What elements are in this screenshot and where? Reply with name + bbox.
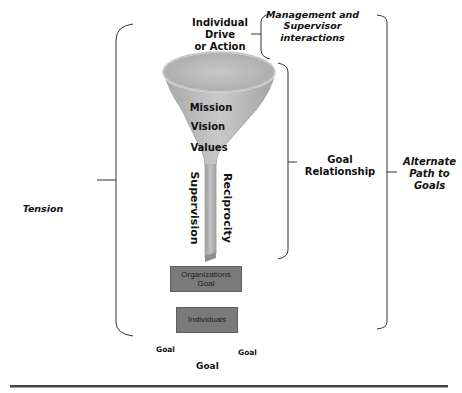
alternate-path-label: Alternate Path to Goals bbox=[397, 156, 462, 192]
management-line-3: interactions bbox=[265, 32, 360, 43]
bottom-rule bbox=[10, 385, 448, 388]
alternate-path-line-1: Alternate bbox=[397, 156, 462, 168]
funnel-top-line-2: Drive bbox=[170, 29, 270, 41]
vision-label: Vision bbox=[186, 121, 230, 133]
organizations-goal-box: Organizations Goal bbox=[170, 266, 242, 292]
goal-relationship-line-2: Relationship bbox=[300, 166, 380, 178]
tension-label: Tension bbox=[18, 203, 68, 214]
goal-relationship-label: Goal Relationship bbox=[300, 154, 380, 178]
management-line-1: Management and bbox=[265, 9, 360, 20]
funnel-icon bbox=[163, 52, 275, 262]
alternate-path-bracket bbox=[377, 15, 397, 329]
alternate-path-line-2: Path to bbox=[397, 168, 462, 180]
goal-label-right: Goal bbox=[238, 348, 257, 357]
funnel-top-line-1: Individual bbox=[170, 17, 270, 29]
individuals-box: Individuals bbox=[176, 307, 238, 333]
funnel-top-line-3: or Action bbox=[170, 41, 270, 53]
tension-bracket bbox=[97, 24, 133, 336]
organizations-box-line-2: Goal bbox=[181, 279, 230, 288]
goal-label-left: Goal bbox=[156, 345, 175, 354]
goal-relationship-bracket bbox=[278, 63, 297, 259]
goal-label-center: Goal bbox=[196, 361, 219, 371]
management-label: Management and Supervisor interactions bbox=[265, 9, 360, 43]
management-line-2: Supervisor bbox=[265, 20, 360, 31]
individuals-box-label: Individuals bbox=[188, 315, 226, 324]
organizations-box-line-1: Organizations bbox=[181, 270, 230, 279]
values-label: Values bbox=[186, 142, 232, 154]
funnel-top-label: Individual Drive or Action bbox=[170, 17, 270, 53]
mission-label: Mission bbox=[186, 102, 236, 114]
goal-relationship-line-1: Goal bbox=[300, 154, 380, 166]
alternate-path-line-3: Goals bbox=[397, 180, 462, 192]
reciprocity-label: Reciprocity bbox=[221, 173, 234, 243]
supervision-label: Supervision bbox=[188, 171, 201, 244]
